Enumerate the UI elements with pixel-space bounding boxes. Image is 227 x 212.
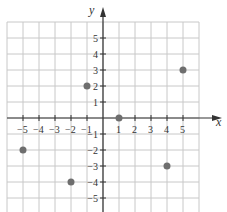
x-tick-label: 5 <box>180 124 185 135</box>
x-tick-label: −4 <box>33 124 44 135</box>
x-tick-label: 4 <box>164 124 169 135</box>
data-point <box>180 67 187 74</box>
y-tick-label: −2 <box>87 145 98 156</box>
y-tick-label: 3 <box>93 65 98 76</box>
data-point <box>164 163 171 170</box>
y-axis-arrow-icon <box>100 7 106 17</box>
data-point <box>84 83 91 90</box>
x-tick-label: −3 <box>49 124 60 135</box>
data-point <box>68 179 75 186</box>
data-point <box>20 147 27 154</box>
y-tick-label: −5 <box>87 193 98 204</box>
y-tick-label: 1 <box>93 97 98 108</box>
x-tick-label: 2 <box>132 124 137 135</box>
y-tick-label: 4 <box>93 49 98 60</box>
x-tick-label: −2 <box>65 124 76 135</box>
y-tick-label: −3 <box>87 161 98 172</box>
x-tick-label: 1 <box>116 124 121 135</box>
x-tick-label: 3 <box>148 124 153 135</box>
x-tick-label: −5 <box>17 124 28 135</box>
y-tick-label: 5 <box>93 33 98 44</box>
y-axis-label: y <box>88 3 95 17</box>
y-tick-label: −4 <box>87 177 98 188</box>
y-tick-label: −1 <box>87 129 98 140</box>
x-axis-label: x <box>215 115 222 129</box>
coordinate-plane: −5−4−3−2−11234554321−1−2−3−4−5 x y <box>0 0 227 212</box>
y-tick-label: 2 <box>93 81 98 92</box>
data-point <box>116 115 123 122</box>
